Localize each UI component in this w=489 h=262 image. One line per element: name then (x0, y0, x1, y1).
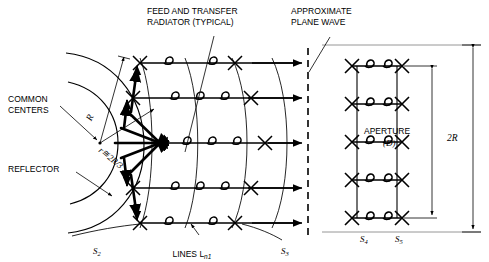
two-r-dimension (462, 45, 481, 232)
s3-sub: 3 (286, 250, 289, 257)
lines-label-subscript: n1 (204, 253, 211, 260)
surface-label-s3: S3 (272, 236, 289, 262)
schematic-drawing (0, 0, 489, 262)
reflector-label: REFLECTOR (8, 164, 59, 175)
s2-sub: 2 (98, 250, 101, 257)
lines-label-text: LINES L (172, 249, 204, 259)
two-r-label: 2R (447, 133, 458, 143)
plane-wave-leader (309, 37, 330, 72)
feed-transfer-label: FEED AND TRANSFER RADIATOR (TYPICAL) (147, 6, 238, 27)
common-center-point (98, 141, 101, 144)
feed-transfer-leader (185, 36, 214, 152)
aperture-symbol-label: (D) (383, 138, 396, 148)
surface-label-s5: S5 (386, 224, 403, 255)
s4-sub: 4 (365, 238, 368, 245)
figure-canvas: FEED AND TRANSFER RADIATOR (TYPICAL) APP… (0, 0, 489, 262)
common-centers-leader (60, 106, 97, 140)
lines-label-leader (191, 224, 199, 235)
lines-label: LINES Ln1 (163, 238, 211, 262)
aperture-dimension (404, 66, 437, 218)
aperture-label: APERTURE (364, 126, 410, 137)
common-centers-label: COMMON CENTERS (8, 94, 49, 115)
plane-wave-label: APPROXIMATE PLANE WAVE (291, 6, 352, 27)
surface-label-s4: S4 (351, 224, 368, 255)
s5-sub: 5 (400, 238, 403, 245)
surface-label-s2: S2 (84, 236, 101, 262)
